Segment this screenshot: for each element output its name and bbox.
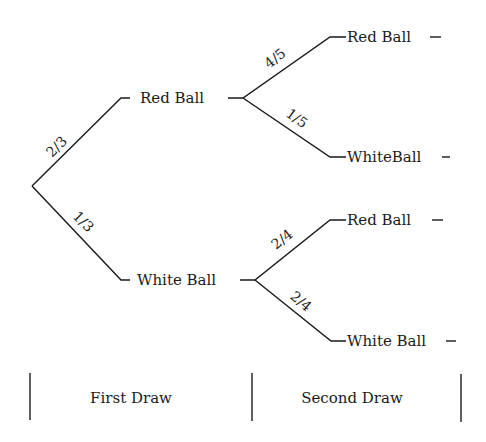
probability-tree-diagram: 2/3 1/3 Red Ball White Ball 4/5 1/5 2/4 … bbox=[0, 0, 486, 442]
leaf-red-red: Red Ball bbox=[347, 28, 441, 46]
node-red-white: WhiteBall bbox=[347, 148, 422, 166]
stage-label-first-draw: First Draw bbox=[90, 389, 172, 407]
branch-white-red: 2/4 bbox=[240, 220, 346, 280]
leaf-white-white: White Ball bbox=[347, 332, 456, 350]
branch-red-red: 4/5 bbox=[228, 37, 346, 98]
stage-label-second-draw: Second Draw bbox=[301, 389, 403, 407]
prob-label-white-white: 2/4 bbox=[287, 288, 315, 315]
branch-first-white: 1/3 bbox=[32, 186, 130, 280]
branch-red-white: 1/5 bbox=[243, 98, 346, 157]
node-first-red: Red Ball bbox=[140, 89, 204, 107]
node-first-white: White Ball bbox=[137, 271, 216, 289]
prob-label-red-white: 1/5 bbox=[283, 105, 311, 131]
branch-white-white: 2/4 bbox=[255, 280, 346, 341]
node-red-red: Red Ball bbox=[347, 28, 411, 46]
prob-label-white-red: 2/4 bbox=[268, 226, 296, 253]
leaf-white-red: Red Ball bbox=[347, 211, 443, 229]
prob-label-first-red: 2/3 bbox=[43, 133, 70, 160]
leaf-red-white: WhiteBall bbox=[347, 148, 450, 166]
branch-first-red: 2/3 bbox=[32, 98, 130, 186]
node-white-white: White Ball bbox=[347, 332, 426, 350]
node-white-red: Red Ball bbox=[347, 211, 411, 229]
prob-label-red-red: 4/5 bbox=[261, 45, 289, 71]
